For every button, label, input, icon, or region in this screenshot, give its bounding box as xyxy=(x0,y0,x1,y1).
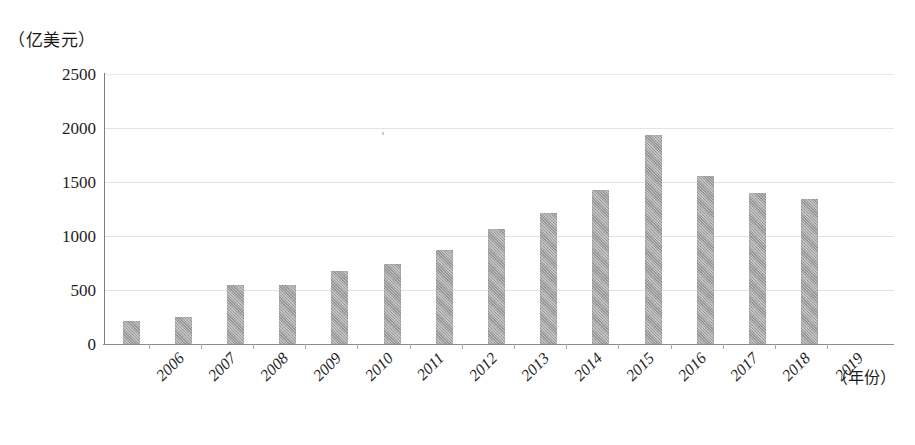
bar-2011 xyxy=(384,264,401,344)
bar-2007 xyxy=(175,317,192,344)
x-tick-label-2016: 2016 xyxy=(675,350,709,384)
x-tick-label-2006: 2006 xyxy=(153,350,187,384)
bar-2013 xyxy=(488,229,505,344)
x-tick-mark xyxy=(305,344,306,349)
y-tick-label: 2000 xyxy=(40,120,96,137)
x-tick-mark xyxy=(201,344,202,349)
x-tick-label-2009: 2009 xyxy=(310,350,344,384)
x-tick-mark xyxy=(253,344,254,349)
x-tick-label-2007: 2007 xyxy=(206,350,240,384)
x-tick-mark xyxy=(618,344,619,349)
y-axis-unit-label: （亿美元） xyxy=(8,26,96,51)
x-axis-tick-labels: 2006200720082009201020112012201320142015… xyxy=(104,350,894,410)
x-tick-mark xyxy=(671,344,672,349)
x-axis-unit-label: （年份） xyxy=(832,364,896,388)
y-tick-label: 0 xyxy=(40,336,96,353)
x-tick-mark xyxy=(827,344,828,349)
x-tick-mark xyxy=(410,344,411,349)
x-tick-mark xyxy=(723,344,724,349)
y-tick-label: 500 xyxy=(40,282,96,299)
x-tick-label-2012: 2012 xyxy=(467,350,501,384)
x-tick-label-2015: 2015 xyxy=(623,350,657,384)
x-tick-mark xyxy=(514,344,515,349)
x-tick-mark xyxy=(775,344,776,349)
x-tick-mark xyxy=(149,344,150,349)
bar-2017 xyxy=(697,176,714,344)
y-axis-tick-labels: 2500 2000 1500 1000 500 0 xyxy=(34,74,96,344)
bar-2016 xyxy=(645,135,662,344)
x-tick-label-2018: 2018 xyxy=(780,350,814,384)
x-tick-label-2011: 2011 xyxy=(414,350,447,383)
x-tick-mark xyxy=(357,344,358,349)
y-tick-label: 2500 xyxy=(40,66,96,83)
bar-2018 xyxy=(749,193,766,344)
x-tick-mark xyxy=(462,344,463,349)
plot-area xyxy=(104,74,894,344)
x-tick-label-2014: 2014 xyxy=(571,350,605,384)
bar-2019 xyxy=(801,199,818,344)
x-tick-mark xyxy=(566,344,567,349)
bar-2008 xyxy=(227,285,244,344)
x-tick-label-2013: 2013 xyxy=(519,350,553,384)
x-tick-label-2017: 2017 xyxy=(728,350,762,384)
bar-series xyxy=(104,74,894,344)
x-tick-label-2010: 2010 xyxy=(362,350,396,384)
bar-2014 xyxy=(540,213,557,344)
scan-speck xyxy=(382,132,384,135)
bar-2012 xyxy=(436,250,453,344)
y-tick-label: 1000 xyxy=(40,228,96,245)
bar-2009 xyxy=(279,285,296,344)
bar-2006 xyxy=(123,321,140,344)
x-tick-label-2008: 2008 xyxy=(258,350,292,384)
bar-2010 xyxy=(331,271,348,344)
y-tick-label: 1500 xyxy=(40,174,96,191)
bar-chart-figure: （亿美元） 2500 2000 1500 1000 500 0 20062007… xyxy=(0,0,915,445)
bar-2015 xyxy=(592,190,609,344)
